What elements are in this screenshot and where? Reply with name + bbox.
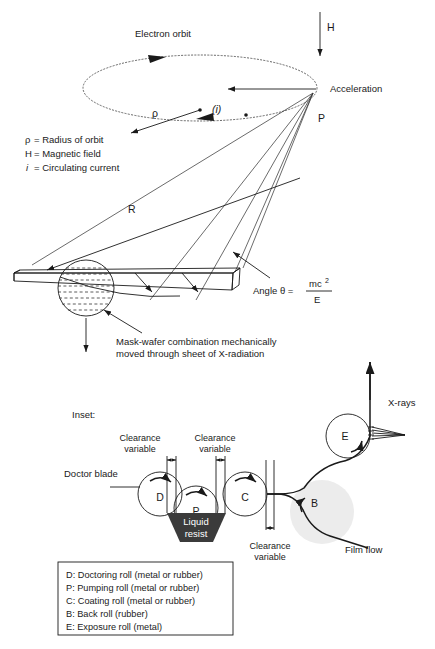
legend-line-2: C: Coating roll (metal or rubber) <box>66 596 195 606</box>
key-symbol-0: ρ <box>25 134 31 145</box>
roll-e-group: E <box>326 414 370 458</box>
inset-coating-diagram: Inset: Clearance variable Clearance vari… <box>58 362 416 635</box>
roll-p-rotation-arrow <box>186 492 207 496</box>
acceleration-label: Acceleration <box>330 83 382 94</box>
angle-theta-callout: Angle θ = mc 2 E <box>233 252 332 305</box>
point-p-label: P <box>318 112 325 124</box>
sheet-front-face <box>14 273 233 290</box>
key-text-1: = Magnetic field <box>34 148 101 159</box>
circulating-current-dot <box>244 113 248 117</box>
mask-note-line-2: moved through sheet of X-radiation <box>116 348 264 359</box>
liquid-resist-line-1: Liquid <box>183 516 208 527</box>
legend-line-0: D: Doctoring roll (metal or rubber) <box>66 570 203 580</box>
angle-numerator: mc <box>309 278 322 289</box>
clearance-marker-3: Clearance variable <box>249 460 290 562</box>
figure-canvas: H Electron orbit ρ (i) Acceleration P <box>0 0 435 649</box>
acceleration-arrow-group: Acceleration <box>228 83 382 94</box>
key-text-2: = Circulating current <box>34 162 120 173</box>
roll-c-group: C <box>223 472 267 516</box>
roll-e-label: E <box>341 430 348 442</box>
clearance-2-line-1: Clearance <box>194 433 235 443</box>
roll-e-rotation-arrow <box>351 441 362 452</box>
angle-numerator-exponent: 2 <box>325 277 329 284</box>
radius-arrow <box>131 110 200 133</box>
symbol-key: ρ = Radius of orbit H = Magnetic field i… <box>25 134 120 173</box>
clearance-marker-2: Clearance variable <box>194 433 235 513</box>
angle-callout-arrow <box>233 252 270 278</box>
circulating-current-group: (i) <box>212 103 248 117</box>
radius-symbol: ρ <box>152 107 158 119</box>
mask-wafer-hatching <box>58 268 114 310</box>
roll-d-group: D <box>138 472 182 516</box>
radius-indicator-group: ρ <box>131 107 202 133</box>
key-symbol-1: H <box>25 148 32 159</box>
clearance-1-line-1: Clearance <box>119 433 160 443</box>
orbit-direction-arrow-top <box>148 55 166 63</box>
clearance-1-line-2: variable <box>124 444 156 454</box>
upper-synchrotron-diagram: H Electron orbit ρ (i) Acceleration P <box>14 12 382 359</box>
circulating-current-symbol: (i) <box>212 103 221 115</box>
film-flow-label: Film flow <box>345 544 383 555</box>
roll-legend-box: D: Doctoring roll (metal or rubber) P: P… <box>58 562 233 635</box>
distance-r-arrow <box>47 178 300 270</box>
clearance-3-line-1: Clearance <box>249 541 290 551</box>
ray-outer-lower <box>243 93 313 268</box>
magnetic-field-arrow-group: H <box>320 12 335 56</box>
inset-caption: Inset: <box>72 409 95 420</box>
roll-c-rotation-arrow <box>235 478 256 482</box>
legend-line-4: E: Exposure roll (metal) <box>66 622 162 632</box>
back-roll-disc <box>290 480 354 544</box>
doctor-blade-label: Doctor blade <box>64 468 118 479</box>
angle-label: Angle θ = <box>253 285 294 296</box>
legend-line-3: B: Back roll (rubber) <box>66 609 148 619</box>
orbit-label: Electron orbit <box>135 28 191 39</box>
legend-line-1: P: Pumping roll (metal or rubber) <box>66 583 199 593</box>
roll-c-label: C <box>241 491 249 503</box>
mask-wafer-callout-arrow <box>104 310 142 333</box>
distance-r-label: R <box>128 203 136 215</box>
impact-arrow-2 <box>182 273 198 292</box>
magnetic-field-symbol: H <box>327 21 335 33</box>
clearance-2-line-2: variable <box>199 444 231 454</box>
roll-d-label: D <box>156 491 164 503</box>
ray-impact-arrowheads <box>135 273 198 292</box>
sheet-top-face <box>14 268 240 273</box>
roll-b-label: B <box>311 497 318 509</box>
distance-r-group: R <box>47 178 300 270</box>
liquid-resist-group: Liquid resist <box>167 513 226 542</box>
ray-mid-2 <box>196 93 313 300</box>
sheet-right-face <box>232 268 240 290</box>
clearance-3-line-2: variable <box>254 552 286 562</box>
ray-mid-3 <box>235 93 313 272</box>
key-text-0: = Radius of orbit <box>34 134 104 145</box>
roll-d-rotation-arrow <box>150 478 171 482</box>
doctor-blade-group: Doctor blade <box>64 468 140 487</box>
angle-denominator: E <box>314 294 320 305</box>
mask-wafer-combination: Mask-wafer combination mechanically move… <box>58 260 277 359</box>
liquid-resist-line-2: resist <box>185 528 208 539</box>
xrays-label: X-rays <box>388 397 416 408</box>
key-symbol-2: i <box>26 162 29 173</box>
impact-arrow-1 <box>135 273 152 292</box>
film-web-upper-path <box>267 362 370 494</box>
mask-note-line-1: Mask-wafer combination mechanically <box>116 336 277 347</box>
xray-beam-group: X-rays <box>368 362 416 439</box>
